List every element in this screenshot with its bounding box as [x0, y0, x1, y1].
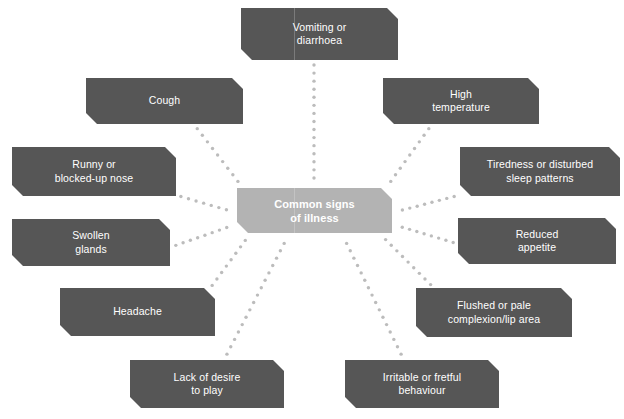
connector-runny-or-blocked-up-nose — [179, 195, 228, 212]
connector-lack-of-desire-to-play — [225, 242, 286, 356]
diagram-node-runny-or-blocked-up-nose[interactable]: Runny or blocked-up nose — [12, 147, 176, 196]
diagram-node-label: Cough — [149, 94, 180, 108]
diagram-node-irritable-or-fretful-behaviour[interactable]: Irritable or fretful behaviour — [345, 360, 499, 408]
connector-headache — [210, 239, 246, 287]
diagram-node-label: Vomiting or diarrhoea — [293, 21, 347, 48]
diagram-node-flushed-or-pale-complexion[interactable]: Flushed or pale complexion/lip area — [416, 288, 572, 337]
diagram-node-vomiting-or-diarrhoea[interactable]: Vomiting or diarrhoea — [241, 8, 398, 60]
connector-tiredness-or-disturbed-sleep — [401, 195, 456, 212]
diagram-node-label: Headache — [113, 305, 162, 319]
diagram-node-tiredness-or-disturbed-sleep[interactable]: Tiredness or disturbed sleep patterns — [460, 147, 620, 196]
diagram-node-high-temperature[interactable]: High temperature — [383, 78, 539, 124]
diagram-node-label: Lack of desire to play — [174, 371, 241, 398]
diagram-node-headache[interactable]: Headache — [60, 288, 215, 336]
connector-high-temperature — [389, 127, 430, 183]
diagram-node-swollen-glands[interactable]: Swollen glands — [12, 219, 170, 266]
connector-reduced-appetite — [401, 225, 455, 244]
diagram-node-label: Runny or blocked-up nose — [55, 158, 134, 185]
diagram-center-label: Common signs of illness — [274, 197, 355, 225]
connector-cough — [196, 127, 240, 183]
diagram-node-label: Tiredness or disturbed sleep patterns — [487, 158, 593, 185]
connector-vomiting-or-diarrhoea — [312, 63, 315, 179]
diagram-node-label: Irritable or fretful behaviour — [383, 371, 461, 398]
diagram-node-label: Swollen glands — [72, 229, 109, 256]
connector-flushed-or-pale-complexion — [384, 238, 432, 286]
diagram-node-label: Reduced appetite — [516, 228, 559, 255]
connector-swollen-glands — [174, 226, 228, 247]
diagram-node-cough[interactable]: Cough — [86, 78, 243, 124]
diagram-node-reduced-appetite[interactable]: Reduced appetite — [458, 218, 616, 264]
diagram-node-lack-of-desire-to-play[interactable]: Lack of desire to play — [130, 360, 284, 408]
diagram-center-node[interactable]: Common signs of illness — [237, 188, 392, 233]
diagram-node-label: Flushed or pale complexion/lip area — [448, 299, 540, 326]
diagram-canvas: Common signs of illness Vomiting or diar… — [0, 0, 624, 419]
diagram-node-label: High temperature — [432, 88, 490, 115]
connector-irritable-or-fretful-behaviour — [345, 242, 403, 356]
